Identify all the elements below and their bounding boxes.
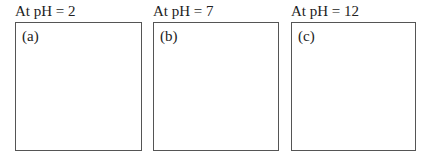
panel-label: (a) (22, 27, 39, 45)
panel-label: (b) (160, 27, 178, 45)
panel-title: At pH = 7 (153, 2, 214, 20)
panel-title: At pH = 2 (15, 2, 76, 20)
panel-title: At pH = 12 (291, 2, 359, 20)
drawing-box: (a) (15, 22, 142, 151)
drawing-box: (b) (153, 22, 279, 151)
drawing-box: (c) (291, 22, 416, 151)
panel-label: (c) (298, 27, 315, 45)
